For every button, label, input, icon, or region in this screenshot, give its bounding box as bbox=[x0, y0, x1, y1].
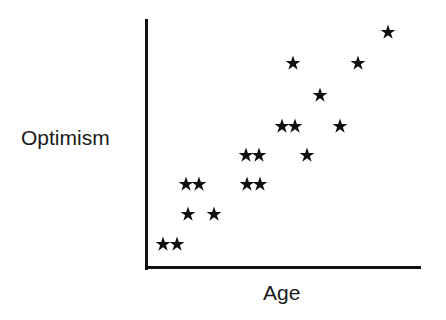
data-point-star bbox=[180, 206, 196, 222]
data-point-star bbox=[332, 118, 348, 134]
x-axis-label: Age bbox=[263, 281, 300, 305]
data-point-star bbox=[252, 176, 268, 192]
data-point-star bbox=[169, 236, 185, 252]
data-point-star bbox=[251, 147, 267, 163]
data-point-star bbox=[285, 55, 301, 71]
data-point-star bbox=[312, 87, 328, 103]
data-point-star bbox=[206, 206, 222, 222]
data-point-star bbox=[380, 24, 396, 40]
y-axis-label: Optimism bbox=[21, 126, 110, 150]
scatter-plot-figure: Optimism Age bbox=[0, 0, 446, 320]
y-axis-line bbox=[145, 19, 148, 270]
x-axis-line bbox=[145, 266, 421, 269]
data-point-star bbox=[299, 147, 315, 163]
data-point-star bbox=[287, 118, 303, 134]
plot-area: Optimism Age bbox=[0, 0, 446, 320]
data-point-star bbox=[191, 176, 207, 192]
data-point-star bbox=[350, 55, 366, 71]
